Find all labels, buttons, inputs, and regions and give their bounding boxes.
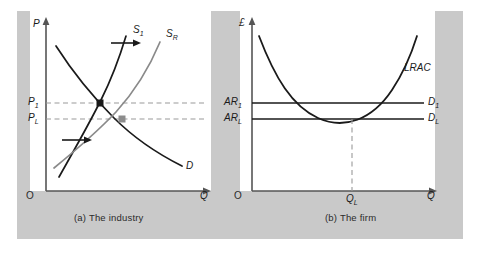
- firm-lrac-curve: [259, 36, 417, 123]
- firm-origin-label: O: [234, 190, 242, 201]
- ar-longrun-label: ARL: [224, 112, 242, 125]
- lrac-label: LRAC: [404, 62, 431, 73]
- panel-firm-curves: [0, 0, 479, 255]
- economics-figure: P Q O S1 SR D P1 PL (a) The industry £: [0, 0, 479, 255]
- firm-x-axis-label: Q: [427, 190, 435, 201]
- firm-axes: [249, 17, 437, 194]
- firm-y-axis-label: £: [239, 17, 245, 28]
- firm-demand-initial-label: D1: [428, 96, 439, 109]
- firm-demand-longrun-label: DL: [428, 112, 439, 125]
- ar-initial-label: AR1: [224, 96, 242, 109]
- firm-quantity-longrun-label: QL: [346, 193, 358, 206]
- firm-caption: (b) The firm: [325, 212, 376, 223]
